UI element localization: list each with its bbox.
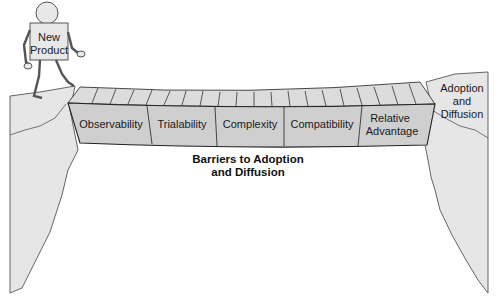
character-label-line1: New — [38, 31, 60, 43]
bridge-deck — [68, 82, 435, 107]
segment-label-observability: Observability — [79, 118, 143, 130]
segment-label-advantage: Advantage — [366, 125, 419, 137]
character-head — [36, 2, 58, 24]
left-cliff — [10, 86, 78, 293]
destination-label-line3: Diffusion — [441, 108, 484, 120]
segment-label-relative: Relative — [370, 112, 410, 124]
caption-line1: Barriers to Adoption — [192, 153, 303, 165]
segment-label-trialability: Trialability — [157, 118, 207, 130]
bridge-diagram: Observability Trialability Complexity Co… — [0, 0, 498, 303]
destination-label-line1: Adoption — [440, 82, 483, 94]
segment-label-compatibility: Compatibility — [291, 118, 354, 130]
character-label-line2: Product — [30, 44, 68, 56]
destination-label-line2: and — [453, 95, 471, 107]
caption-line2: and Diffusion — [211, 166, 284, 178]
segment-label-complexity: Complexity — [223, 118, 278, 130]
